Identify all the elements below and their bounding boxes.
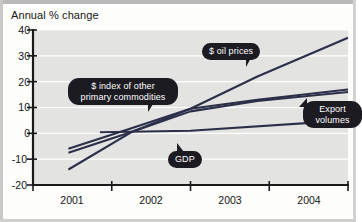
callout-oil-prices: $ oil prices <box>202 43 260 60</box>
y-tick-label-neg10: -10 <box>1 153 27 165</box>
callout-commodities-tail <box>148 101 155 112</box>
callout-export-volumes: Export volumes <box>303 101 362 128</box>
callout-exports-tail <box>299 98 307 107</box>
y-tick-label-20: 20 <box>4 76 30 88</box>
callout-gdp-label: GDP <box>175 154 195 164</box>
callout-gdp: GDP <box>168 151 202 168</box>
callout-commodities: $ index of other primary commodities <box>68 78 178 105</box>
callout-gdp-tail <box>177 143 184 152</box>
callout-oil-tail <box>246 56 252 67</box>
x-tick-label-2004: 2004 <box>279 194 339 206</box>
y-tick-label-30: 30 <box>4 50 30 62</box>
x-tick-label-2003: 2003 <box>200 194 260 206</box>
callout-exports-line2: volumes <box>310 115 355 126</box>
callout-exports-line1: Export <box>310 104 355 115</box>
callout-commodities-line2: primary commodities <box>75 92 171 103</box>
callout-commodities-line1: $ index of other <box>75 81 171 92</box>
y-tick-label-10: 10 <box>4 101 30 113</box>
x-tick-label-2002: 2002 <box>121 194 181 206</box>
y-tick-label-40: 40 <box>4 24 30 36</box>
y-tick-label-0: 0 <box>4 127 30 139</box>
y-tick-label-neg20: -20 <box>1 179 27 191</box>
callout-oil-label: $ oil prices <box>209 46 253 56</box>
x-tick-label-2001: 2001 <box>42 194 102 206</box>
